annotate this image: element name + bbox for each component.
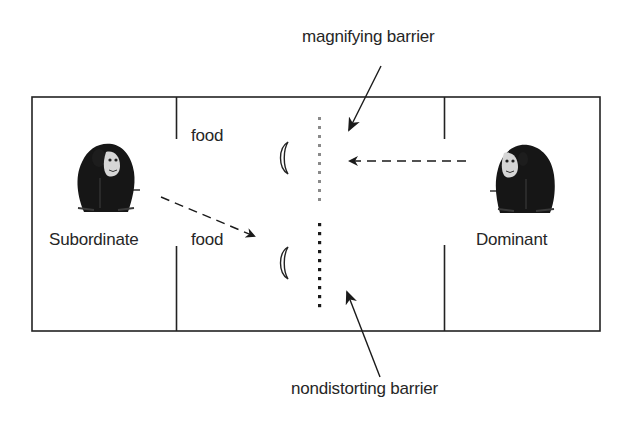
dominant-label: Dominant bbox=[476, 230, 547, 250]
lens-icon-bottom bbox=[281, 247, 289, 279]
magnifying-barrier-label: magnifying barrier bbox=[302, 27, 434, 47]
food-label-top: food bbox=[191, 126, 223, 146]
food-label-bottom: food bbox=[191, 230, 223, 250]
magnifying-barrier bbox=[318, 117, 321, 201]
subordinate-label: Subordinate bbox=[49, 230, 138, 250]
lens-icon-top bbox=[281, 142, 289, 174]
nondistorting-barrier-pointer-arrow bbox=[347, 292, 380, 377]
nondistorting-barrier-label: nondistorting barrier bbox=[291, 379, 438, 399]
magnifying-barrier-pointer-arrow bbox=[349, 66, 381, 130]
subordinate-chimp-icon bbox=[70, 138, 142, 214]
nondistorting-barrier bbox=[318, 223, 321, 307]
dominant-chimp-icon bbox=[490, 139, 562, 215]
